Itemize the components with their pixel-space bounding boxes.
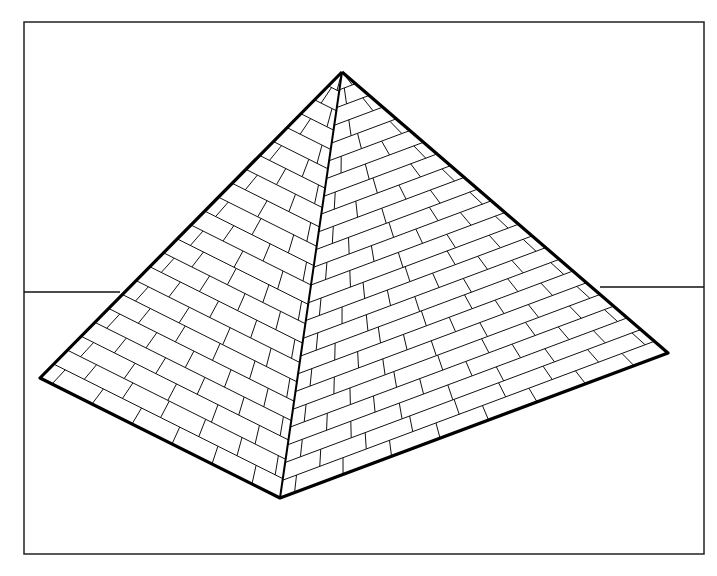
- pyramid-illustration: [0, 0, 717, 576]
